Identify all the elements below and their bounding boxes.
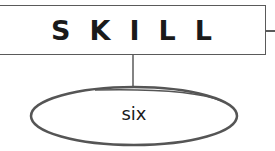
child-node-label: six (100, 103, 168, 124)
root-node-box: SKILL (0, 5, 266, 55)
root-node-label: SKILL (51, 15, 231, 46)
side-connector-stub (266, 30, 275, 32)
ellipse-sketch-stroke (95, 90, 222, 101)
